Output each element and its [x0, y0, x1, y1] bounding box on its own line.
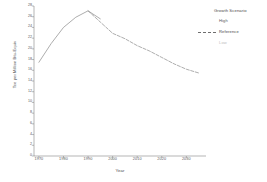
y-tick-label: 26	[28, 15, 32, 19]
plot-svg	[34, 6, 206, 156]
data-series-group	[39, 11, 199, 73]
y-tick-label: 10	[28, 101, 32, 105]
x-tick-label: 1970	[34, 157, 43, 161]
x-tick-label: 2010	[133, 157, 142, 161]
y-tick-label: 18	[28, 58, 32, 62]
x-axis-title: Year	[34, 168, 206, 173]
legend-label: Reference	[219, 29, 239, 34]
x-tick-label: 2020	[157, 157, 166, 161]
legend-label: Low	[219, 40, 227, 45]
legend-title: Growth Scenario	[214, 8, 247, 13]
y-tick-label: 24	[28, 26, 32, 30]
plot-area	[34, 6, 206, 156]
x-tick-label: 1990	[84, 157, 93, 161]
series-line-reference	[88, 11, 199, 73]
legend-entry-high[interactable]: High	[196, 17, 266, 26]
legend-sample-low	[198, 43, 217, 44]
chart-legend: Growth Scenario HighReferenceLow	[196, 6, 266, 56]
y-tick-label: 2	[30, 143, 32, 147]
y-axis-tick-labels: 0246810121416182022242628	[18, 6, 32, 156]
legend-sample-reference	[198, 32, 217, 33]
x-tick-label: 2000	[108, 157, 117, 161]
y-tick-label: 16	[28, 68, 32, 72]
legend-entry-reference[interactable]: Reference	[196, 28, 266, 37]
x-tick-label: 1980	[59, 157, 68, 161]
y-tick-label: 22	[28, 36, 32, 40]
x-axis-tick-labels: 1970198019902000201020202030	[34, 157, 206, 167]
y-tick-label: 0	[30, 154, 32, 158]
y-tick-label: 4	[30, 133, 32, 137]
y-axis-title: Tce per Million Btu-Equiv	[12, 25, 17, 105]
y-tick-label: 28	[28, 4, 32, 8]
y-tick-label: 14	[28, 79, 32, 83]
y-tick-label: 6	[30, 122, 32, 126]
legend-label: High	[219, 18, 228, 23]
y-tick-label: 20	[28, 47, 32, 51]
chart-figure: 0246810121416182022242628 Tce per Millio…	[0, 0, 267, 182]
legend-entry-low[interactable]: Low	[196, 39, 266, 48]
y-tick-label: 12	[28, 90, 32, 94]
x-tick-label: 2030	[182, 157, 191, 161]
y-tick-label: 8	[30, 111, 32, 115]
legend-sample-high	[198, 21, 217, 22]
series-line-high	[39, 11, 100, 62]
y-axis-ticks	[32, 6, 34, 156]
